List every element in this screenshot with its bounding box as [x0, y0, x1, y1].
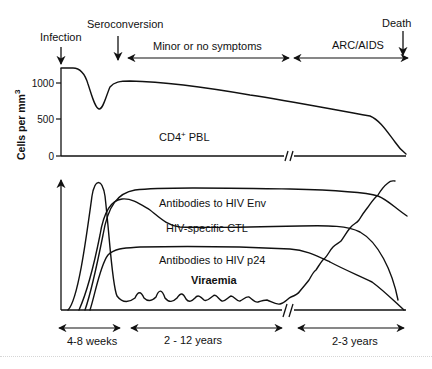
seroconversion-label: Seroconversion	[87, 18, 163, 30]
death-label: Death	[382, 17, 411, 29]
phase1-label: 4-8 weeks	[67, 335, 118, 347]
phase-arc-aids-label: ARC/AIDS	[332, 39, 384, 51]
bottom-phase-1: 4-8 weeks	[59, 328, 120, 347]
axis-break-icon	[282, 304, 294, 317]
hiv-natural-history-diagram: Infection Seroconversion Death Minor or …	[0, 0, 432, 369]
infection-label: Infection	[40, 31, 82, 43]
infection-event: Infection	[40, 31, 82, 64]
immune-response-chart: Antibodies to HIV Env HIV-specific CTL A…	[61, 180, 407, 317]
axis-break-icon	[284, 151, 294, 161]
phase3-label: 2-3 years	[332, 335, 378, 347]
label-viraemia: Viraemia	[191, 274, 238, 286]
cd4-chart: Cells per mm3 1000 500 0 CD4+ PBL	[13, 68, 406, 162]
y-tick-1000: 1000	[32, 78, 55, 89]
cd4-curve	[61, 68, 406, 154]
phase-minor-label: Minor or no symptoms	[153, 40, 262, 52]
phase-arc-aids: ARC/AIDS	[294, 39, 408, 58]
cd4-pbl-label: CD4+ PBL	[159, 130, 210, 143]
bottom-phase-3: 2-3 years	[298, 328, 404, 347]
death-event: Death	[382, 17, 411, 55]
phase2-label: 2 - 12 years	[164, 334, 223, 346]
y-axis-label: Cells per mm3	[13, 89, 27, 160]
y-tick-500: 500	[37, 114, 54, 125]
label-antibodies-env: Antibodies to HIV Env	[159, 197, 267, 209]
phase-minor-symptoms: Minor or no symptoms	[128, 40, 289, 58]
footer-divider	[0, 356, 432, 357]
bottom-phase-2: 2 - 12 years	[131, 328, 282, 346]
label-hiv-specific-ctl: HIV-specific CTL	[166, 222, 248, 234]
seroconversion-event: Seroconversion	[87, 18, 163, 60]
y-tick-0: 0	[48, 151, 54, 162]
label-antibodies-p24: Antibodies to HIV p24	[159, 254, 265, 266]
